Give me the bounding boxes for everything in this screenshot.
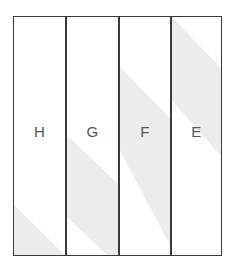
panel-h[interactable]: H [14, 17, 65, 255]
panel-f[interactable]: F [120, 17, 171, 255]
panel-label: E [172, 124, 222, 140]
panel-label: G [67, 124, 119, 140]
panel-frame: H G F E [13, 16, 222, 256]
panel-e[interactable]: E [172, 17, 222, 255]
panel-g[interactable]: G [67, 17, 119, 255]
panel-label: H [14, 124, 65, 140]
panel-label: F [120, 124, 171, 140]
